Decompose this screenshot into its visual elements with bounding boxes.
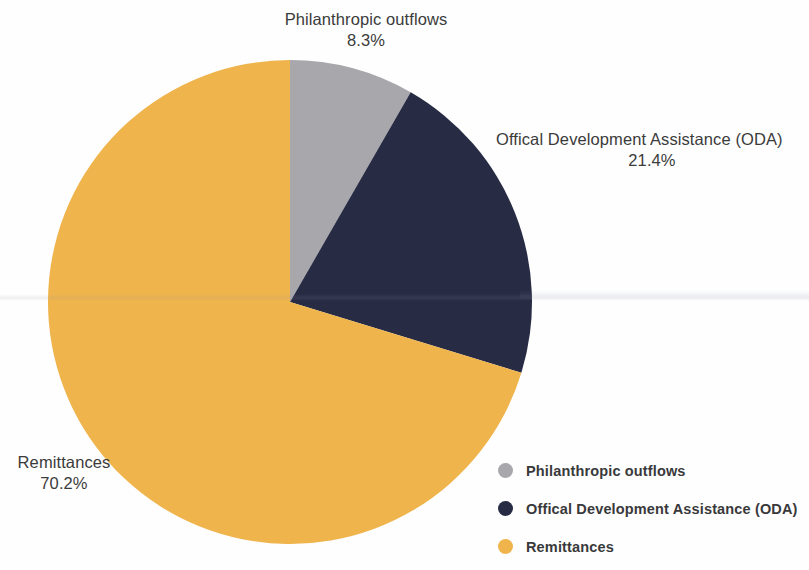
legend-swatch-icon-remittances [498, 539, 513, 554]
legend-label-remittances: Remittances [526, 539, 614, 555]
slice-callout-remittances: Remittances 70.2% [2, 452, 126, 494]
legend-swatch-icon-philanthropic-outflows [498, 463, 513, 478]
slice-callout-remittances-name: Remittances [18, 453, 111, 471]
legend-label-philanthropic-outflows: Philanthropic outflows [526, 463, 686, 479]
slice-callout-oda: Offical Development Assistance (ODA) 21.… [496, 129, 808, 171]
scan-artifact-line-secondary [520, 290, 809, 300]
legend-item-remittances[interactable]: Remittances [498, 536, 798, 557]
legend-item-oda[interactable]: Offical Development Assistance (ODA) [498, 498, 798, 519]
legend-swatch-icon-oda [498, 501, 513, 516]
pie-chart-figure: Philanthropic outflows 8.3% Offical Deve… [0, 0, 809, 570]
slice-callout-oda-percent: 21.4% [496, 150, 808, 171]
legend-item-philanthropic-outflows[interactable]: Philanthropic outflows [498, 460, 798, 481]
slice-callout-oda-name: Offical Development Assistance (ODA) [496, 130, 783, 148]
chart-legend: Philanthropic outflows Offical Developme… [498, 460, 798, 557]
slice-callout-philanthropic-percent: 8.3% [252, 30, 480, 51]
slice-callout-philanthropic: Philanthropic outflows 8.3% [252, 9, 480, 51]
legend-label-oda: Offical Development Assistance (ODA) [526, 501, 798, 517]
slice-callout-philanthropic-name: Philanthropic outflows [285, 10, 448, 28]
slice-callout-remittances-percent: 70.2% [2, 473, 126, 494]
